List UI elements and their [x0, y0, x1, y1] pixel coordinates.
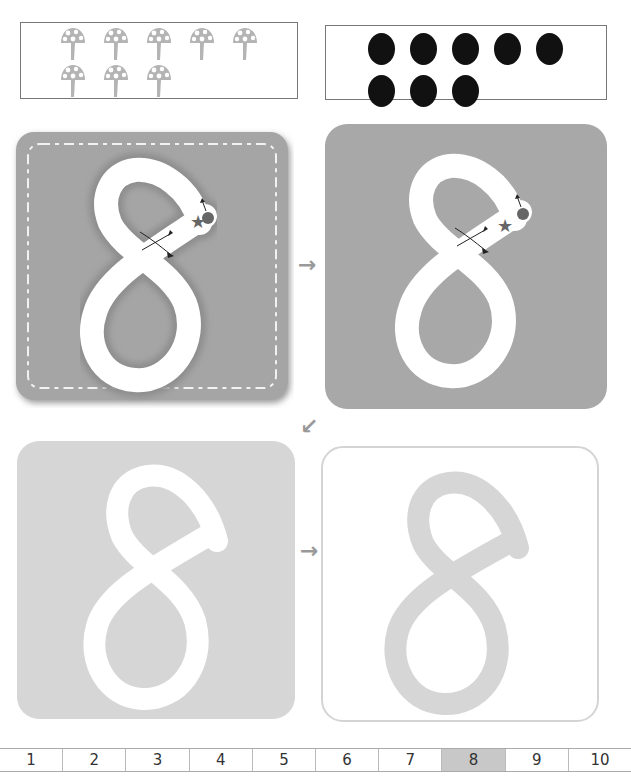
number-cell-9[interactable]: 9	[506, 749, 569, 771]
number-cell-3[interactable]: 3	[126, 749, 189, 771]
star-icon: ★	[190, 211, 206, 232]
arrow-down-left-icon: ↙	[300, 416, 318, 438]
mushroom-icon	[102, 27, 130, 61]
number-cell-10[interactable]: 10	[569, 749, 631, 771]
number-strip: 12345678910	[0, 748, 631, 772]
number-cell-8[interactable]: 8	[442, 749, 505, 771]
dot-icon	[368, 75, 395, 107]
start-dot-icon	[517, 208, 529, 220]
number-cell-1[interactable]: 1	[0, 749, 63, 771]
number-cell-7[interactable]: 7	[379, 749, 442, 771]
trace-card-textured[interactable]: ★	[10, 128, 294, 408]
dot-icon	[452, 33, 479, 65]
mushroom-icon	[188, 27, 216, 61]
digit-eight-path	[407, 166, 520, 376]
arrow-right-icon: →	[298, 254, 316, 276]
digit-eight-path	[395, 482, 518, 704]
mushroom-icon	[59, 64, 87, 98]
dot-count-box	[325, 25, 607, 100]
number-cell-2[interactable]: 2	[63, 749, 126, 771]
number-cell-4[interactable]: 4	[190, 749, 253, 771]
dot-icon	[536, 33, 563, 65]
arrow-right-icon: →	[300, 540, 318, 562]
number-cell-6[interactable]: 6	[316, 749, 379, 771]
mushroom-icon	[231, 27, 259, 61]
trace-card-light[interactable]	[17, 441, 295, 719]
digit-eight-path	[94, 475, 217, 699]
mushroom-icon	[145, 27, 173, 61]
dot-icon	[368, 33, 395, 65]
mushroom-count-box	[20, 22, 298, 99]
mushroom-icon	[102, 64, 130, 98]
star-icon: ★	[497, 215, 513, 236]
dot-icon	[410, 33, 437, 65]
mushroom-icon	[145, 64, 173, 98]
trace-card-outline[interactable]	[321, 446, 599, 722]
dot-icon	[452, 75, 479, 107]
dot-icon	[410, 75, 437, 107]
dot-icon	[494, 33, 521, 65]
number-cell-5[interactable]: 5	[253, 749, 316, 771]
trace-card-solid[interactable]: ★	[325, 124, 607, 409]
mushroom-icon	[59, 27, 87, 61]
